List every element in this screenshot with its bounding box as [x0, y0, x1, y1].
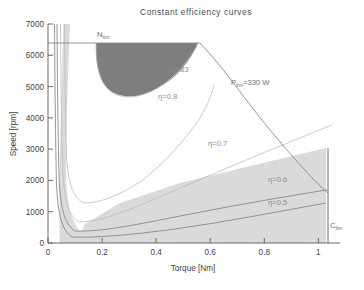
x-tick-label-02: 0.2: [96, 248, 108, 257]
x-tick-label-04: 0.4: [150, 248, 162, 257]
eta-07-label: η=0.7: [208, 139, 227, 148]
y-tick-label-4000: 4000: [26, 114, 45, 123]
efficiency-chart: 0 1000 2000 3000 4000 5000 6000 7000 0 0…: [0, 0, 364, 290]
y-tick-label-0: 0: [39, 239, 44, 248]
x-tick-label-08: 0.8: [259, 248, 271, 257]
y-tick-label-1000: 1000: [26, 208, 45, 217]
y-tick-label-3000: 3000: [26, 145, 45, 154]
y-tick-label-6000: 6000: [26, 51, 45, 60]
eta-08-label: η=0.8: [158, 92, 177, 101]
y-axis-label: Speed [rpm]: [9, 112, 18, 157]
eta-05-label: η=0.5: [268, 198, 287, 207]
chart-title: Constant efficiency curves: [140, 7, 252, 17]
y-tick-label-2000: 2000: [26, 176, 45, 185]
figure-container: 0 1000 2000 3000 4000 5000 6000 7000 0 0…: [0, 0, 364, 290]
y-tick-label-5000: 5000: [26, 83, 45, 92]
x-axis-label: Torque [Nm]: [171, 264, 216, 273]
x-tick-label-1: 1: [316, 248, 321, 257]
y-tick-label-7000: 7000: [26, 20, 45, 29]
eta-083-label: η=0.83: [165, 65, 188, 74]
x-tick-label-06: 0.6: [205, 248, 217, 257]
x-tick-label-0: 0: [46, 248, 51, 257]
eta-06-label: η=0.6: [268, 175, 287, 184]
